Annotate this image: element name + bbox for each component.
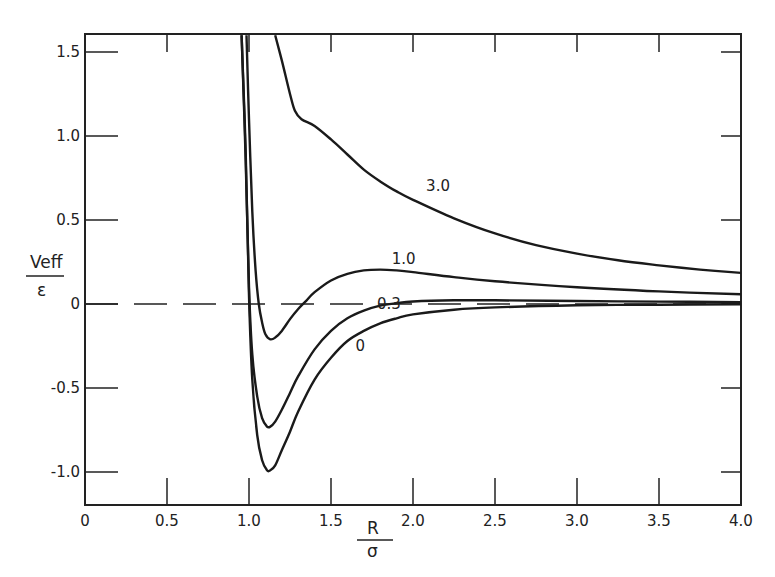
- curve-label-1-0: 1.0: [392, 250, 416, 268]
- potential-chart: 00.51.01.52.02.53.03.54.0-1.0-0.500.51.0…: [0, 0, 775, 577]
- x-axis-label: R σ: [357, 518, 393, 561]
- curve-label-3-0: 3.0: [426, 177, 450, 195]
- y-axis-label-denominator: ε: [37, 280, 46, 300]
- y-axis-label-numerator: Veff: [30, 252, 64, 272]
- y-tick-label: 1.5: [56, 43, 80, 61]
- plot-frame: [85, 34, 741, 505]
- x-tick-label: 2.5: [483, 512, 507, 530]
- x-tick-label: 0.5: [155, 512, 179, 530]
- curve-1-0: [247, 35, 742, 339]
- x-tick-label: 2.0: [401, 512, 425, 530]
- curves: [242, 35, 741, 471]
- x-tick-label: 0: [80, 512, 90, 530]
- y-tick-label: -1.0: [51, 463, 80, 481]
- y-tick-label: 1.0: [56, 127, 80, 145]
- x-axis-label-denominator: σ: [367, 541, 378, 561]
- x-axis-label-numerator: R: [367, 518, 379, 538]
- tick-labels: 00.51.01.52.02.53.03.54.0-1.0-0.500.51.0…: [51, 43, 753, 530]
- x-tick-label: 1.5: [319, 512, 343, 530]
- axis-ticks: [85, 34, 741, 505]
- y-tick-label: 0.5: [56, 211, 80, 229]
- x-tick-label: 3.0: [565, 512, 589, 530]
- y-axis-label: Veff ε: [26, 252, 64, 300]
- y-tick-label: -0.5: [51, 379, 80, 397]
- x-tick-label: 1.0: [237, 512, 261, 530]
- curve-label-0: 0: [356, 337, 366, 355]
- y-tick-label: 0: [70, 295, 80, 313]
- x-tick-label: 3.5: [647, 512, 671, 530]
- curve-3-0: [275, 35, 741, 273]
- plot-border: [85, 34, 741, 505]
- curve-0: [242, 35, 741, 471]
- curve-label-0-3: 0.3: [377, 295, 401, 313]
- x-tick-label: 4.0: [729, 512, 753, 530]
